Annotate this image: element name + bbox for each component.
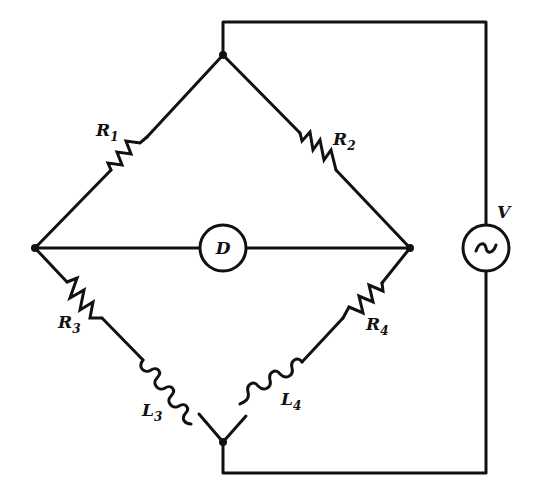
node-bottom <box>219 438 227 446</box>
bridge-circuit-diagram: R1 R2 D R3 L3 R4 L4 V <box>0 0 535 493</box>
top-supply-wire <box>223 22 486 225</box>
arm-r3-l3: R3 L3 <box>35 248 223 442</box>
label-voltage-source: V <box>497 202 512 222</box>
node-left <box>31 244 39 252</box>
resistor-r4 <box>343 283 383 318</box>
arm-r2: R2 <box>223 55 410 248</box>
node-top <box>219 51 227 59</box>
bottom-supply-wire <box>223 271 486 473</box>
resistor-r2 <box>300 132 336 170</box>
label-l3: L3 <box>141 400 162 424</box>
label-r1: R1 <box>95 120 119 144</box>
label-r4: R4 <box>365 314 389 338</box>
node-right <box>406 244 414 252</box>
label-r3: R3 <box>57 312 81 336</box>
resistor-r3 <box>67 278 102 318</box>
label-r2: R2 <box>332 129 356 153</box>
detector-branch: D <box>35 225 410 271</box>
arm-r4-l4: R4 L4 <box>223 248 410 442</box>
label-l4: L4 <box>280 389 301 413</box>
arm-r1: R1 <box>35 55 223 248</box>
label-detector: D <box>215 238 231 258</box>
